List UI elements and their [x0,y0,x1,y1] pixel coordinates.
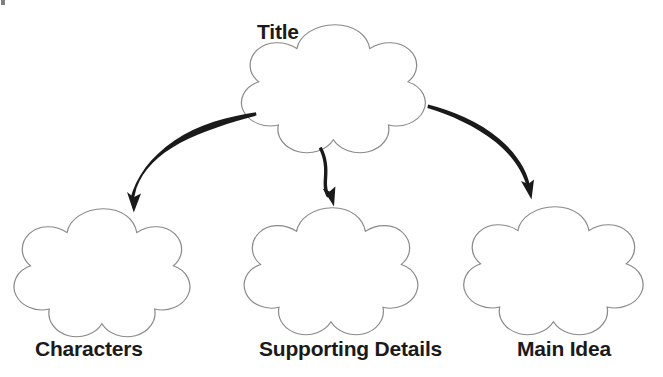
cloud-characters[interactable] [14,209,190,337]
graphic-organizer-diagram [0,0,663,377]
node-label-supporting-details: Supporting Details [259,338,442,359]
worksheet-canvas: Title Characters Supporting Details Main… [0,0,663,377]
cloud-main-idea[interactable] [464,207,643,335]
arrow-to-main-idea [427,105,534,200]
node-label-title: Title [257,21,299,42]
node-label-main-idea: Main Idea [517,338,611,359]
arrow-to-characters [127,112,257,212]
cloud-supporting-details[interactable] [244,208,418,335]
cloud-nodes [14,25,643,337]
arrow-to-supporting-details [319,147,336,207]
cloud-title[interactable] [241,25,425,153]
node-label-characters: Characters [35,338,143,359]
